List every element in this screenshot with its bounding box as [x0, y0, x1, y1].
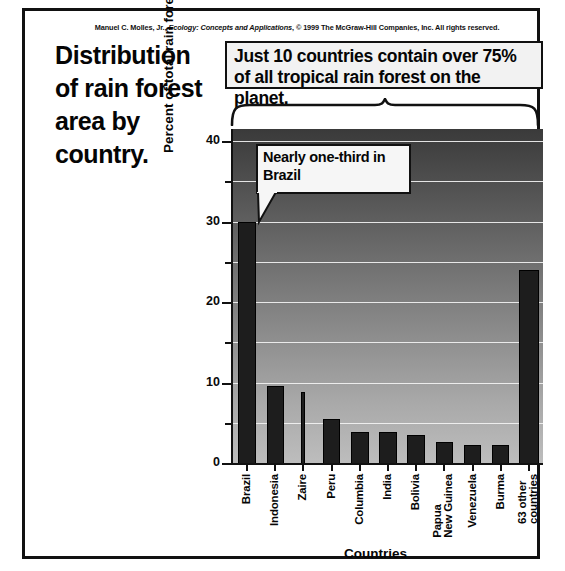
y-tick-major [222, 463, 231, 465]
x-tick-label: Venezuela [467, 474, 478, 528]
y-tick-label: 10 [194, 375, 220, 389]
gridline [233, 262, 543, 263]
y-tick-major [222, 222, 231, 224]
bar-columbia [351, 432, 368, 463]
y-tick-label: 30 [194, 214, 220, 228]
bar-indonesia [267, 386, 284, 463]
x-tick-label: 63 othercountries [517, 474, 539, 524]
y-tick-minor [225, 262, 231, 264]
copyright-credit: Manuel C. Molles, Jr., Ecology: Concepts… [53, 23, 540, 32]
bar-peru [323, 419, 340, 463]
x-tick [528, 465, 530, 471]
x-tick [387, 465, 389, 471]
x-tick [302, 465, 304, 471]
credit-rights: , © 1999 The McGraw-Hill Companies, Inc.… [292, 23, 499, 32]
y-axis-line [231, 129, 233, 464]
x-tick-label: India [382, 474, 393, 500]
bar-venezuela [464, 445, 481, 464]
y-tick-minor [225, 342, 231, 344]
x-tick [274, 465, 276, 471]
credit-author: Manuel C. Molles, Jr., [95, 23, 169, 32]
page-title: Distribution of rain forest area by coun… [55, 39, 207, 171]
x-tick [415, 465, 417, 471]
gridline [233, 302, 543, 303]
callout-brazil: Nearly one-third in Brazil [256, 144, 411, 194]
bar-zaire [301, 392, 305, 463]
callout-brazil-text: Nearly one-third in Brazil [263, 148, 405, 184]
bar-india [379, 432, 396, 463]
gridline [233, 342, 543, 343]
credit-work: Ecology: Concepts and Applications [168, 23, 292, 32]
x-tick-label: Burma [495, 474, 506, 509]
callout-top-countries: Just 10 countries contain over 75% of al… [225, 41, 543, 89]
x-tick-label: Zaire [297, 474, 308, 501]
y-tick-label: 20 [194, 294, 220, 308]
bar-burma [492, 445, 509, 463]
bar-papua-new-guinea [436, 442, 453, 463]
x-tick-label: Peru [326, 474, 337, 499]
x-tick [500, 465, 502, 471]
brace-bracket-icon [230, 98, 540, 126]
y-tick-label: 0 [194, 455, 220, 469]
x-tick-label: Brazil [241, 474, 252, 504]
bar-brazil [238, 222, 255, 463]
x-tick [472, 465, 474, 471]
x-tick [331, 465, 333, 471]
gridline [233, 141, 543, 142]
y-tick-label: 40 [194, 133, 220, 147]
y-tick-major [222, 302, 231, 304]
x-tick-label: Indonesia [269, 474, 280, 526]
y-axis-title: Percent of total rain forest [161, 0, 176, 184]
figure-frame: Manuel C. Molles, Jr., Ecology: Concepts… [22, 8, 540, 559]
y-tick-minor [225, 181, 231, 183]
x-tick-label: Columbia [354, 474, 365, 525]
x-tick [246, 465, 248, 471]
bar-bolivia [407, 435, 424, 463]
x-tick [443, 465, 445, 471]
y-tick-major [222, 141, 231, 143]
x-tick [359, 465, 361, 471]
x-tick-label: Bolivia [410, 474, 421, 510]
callout-pointer-icon [256, 192, 296, 232]
y-tick-minor [225, 423, 231, 425]
bar-63-other-countries [519, 270, 539, 463]
x-tick-label: PapuaNew Guinea [432, 474, 454, 538]
y-tick-major [222, 383, 231, 385]
gridline [233, 383, 543, 384]
x-axis-title: Countries [208, 546, 543, 561]
